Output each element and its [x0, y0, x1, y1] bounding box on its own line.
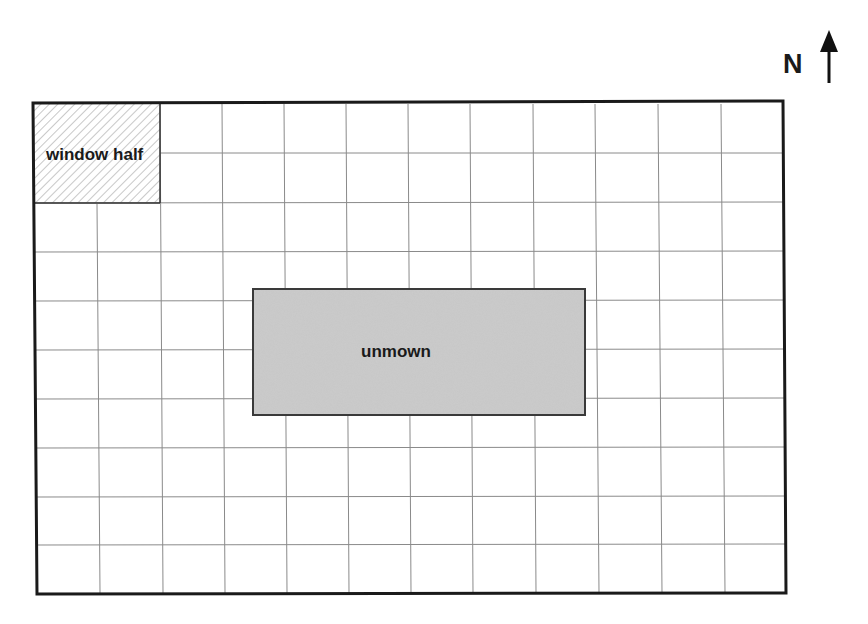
north-arrow-icon [820, 30, 838, 83]
window-half-label: window half [45, 145, 144, 164]
region-window-half: window half [34, 104, 160, 203]
unmown-label: unmown [361, 342, 431, 361]
region-unmown: unmown [253, 289, 585, 415]
compass: N [783, 30, 838, 83]
lawn-grid-diagram: window half unmown N [0, 0, 868, 624]
north-label: N [783, 49, 803, 79]
